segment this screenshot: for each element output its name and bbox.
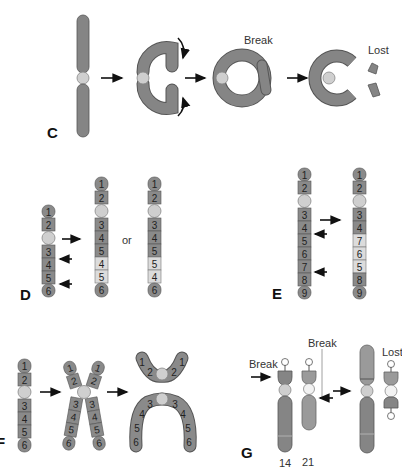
panel-g: Break Break G 14 21 [241,337,402,469]
svg-text:4: 4 [357,223,363,234]
svg-text:6: 6 [152,285,158,296]
chromosome-arm [77,84,89,137]
centromere [156,393,168,405]
panel-f: 1 2 3 4 5 6 F 1 2 1 [0,357,192,453]
svg-text:5: 5 [152,259,158,270]
svg-text:2: 2 [302,183,308,194]
svg-text:6: 6 [302,249,308,260]
svg-text:5: 5 [357,262,363,273]
svg-text:9: 9 [302,288,308,299]
chromosome-14-label: 14 [279,457,291,469]
svg-text:4: 4 [152,233,158,244]
chromosome-aberration-diagram: C Break Lost 1 2 [0,0,402,469]
svg-text:4: 4 [152,272,158,283]
svg-text:1: 1 [179,357,185,368]
svg-text:9: 9 [357,288,363,299]
svg-text:1: 1 [99,179,105,190]
chromosome-21-label: 21 [302,456,314,468]
svg-text:2: 2 [22,375,28,386]
svg-text:2: 2 [171,367,177,378]
chromosome-original: 1 2 3 4 5 6 7 8 9 [298,168,311,299]
svg-text:4: 4 [22,414,28,425]
svg-text:4: 4 [99,259,105,270]
svg-text:8: 8 [302,275,308,286]
panel-label-f: F [0,434,5,451]
centromere [361,385,373,397]
panel-d: 1 2 3 4 5 6 D 1 2 3 4 [20,177,161,303]
svg-text:3: 3 [172,399,178,410]
chromosome-result-b: 1 2 3 4 5 5 4 6 [148,177,161,297]
centromere [78,386,91,399]
svg-text:5: 5 [134,423,140,434]
svg-text:3: 3 [357,210,363,221]
chromosome-x: 1 2 1 2 3 4 5 6 3 [62,360,106,451]
panel-label-d: D [20,286,31,303]
svg-text:4: 4 [180,409,186,420]
svg-text:1: 1 [302,170,308,181]
curved-arrow-icon [178,98,184,116]
svg-text:5: 5 [185,423,191,434]
panel-label-g: G [241,444,253,461]
long-arm-14 [360,397,374,453]
svg-text:4: 4 [139,409,145,420]
chromosome-original: 1 2 3 4 5 6 [18,359,31,452]
centromere [298,195,311,208]
svg-text:2: 2 [147,367,153,378]
satellite [282,359,289,366]
svg-text:3: 3 [302,210,308,221]
svg-text:1: 1 [357,170,363,181]
centromere [148,205,161,218]
svg-text:6: 6 [133,437,139,448]
svg-text:6: 6 [186,437,192,448]
lost-fragment [368,83,380,97]
panel-e: 1 2 3 4 5 6 7 8 9 E 1 2 [272,168,366,302]
svg-text:7: 7 [357,236,363,247]
chromosome-bent-arm [143,84,172,109]
centromere [304,384,315,395]
svg-text:8: 8 [357,275,363,286]
svg-text:4: 4 [46,260,52,271]
break-label: Break [308,337,337,349]
long-arm [302,395,316,430]
svg-text:6: 6 [357,249,363,260]
centromere [323,72,335,84]
lost-label: Lost [368,44,389,56]
svg-text:3: 3 [152,220,158,231]
svg-text:6: 6 [99,285,105,296]
centromere [279,384,291,396]
svg-text:5: 5 [99,246,105,257]
centromere [137,72,149,84]
svg-text:5: 5 [22,427,28,438]
svg-text:5: 5 [302,236,308,247]
svg-text:3: 3 [46,247,52,258]
svg-text:1: 1 [152,179,158,190]
centromere [216,72,228,84]
svg-text:1: 1 [46,207,52,218]
satellite [306,359,313,366]
chromosome-bent-arm [143,47,172,72]
svg-text:1: 1 [22,361,28,372]
centromere [77,72,89,84]
centromere [18,386,31,399]
break-label: Break [244,34,273,46]
svg-text:3: 3 [22,401,28,412]
robertsonian-chromosome [360,345,374,453]
svg-text:7: 7 [302,262,308,273]
svg-text:6: 6 [46,286,52,297]
lost-label: Lost [382,346,402,358]
short-arm [302,371,316,384]
svg-text:2: 2 [357,183,363,194]
or-label: or [122,234,132,246]
centromere [353,195,366,208]
svg-text:5: 5 [99,272,105,283]
panel-label-e: E [272,285,282,302]
svg-text:2: 2 [46,220,52,231]
svg-text:5: 5 [46,273,52,284]
svg-text:5: 5 [152,246,158,257]
long-arm [278,396,292,452]
centromere [42,232,55,245]
centromere [95,205,108,218]
svg-text:3: 3 [147,399,153,410]
isochromosome-long-arm: 3 4 5 6 3 4 5 6 [133,393,192,448]
svg-text:4: 4 [99,233,105,244]
